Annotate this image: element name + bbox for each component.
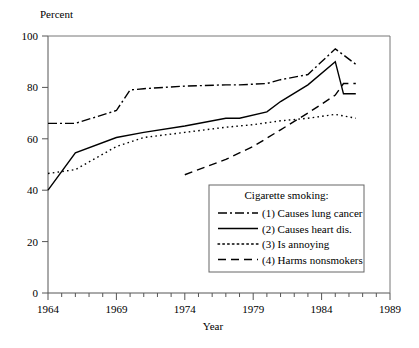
series-line-causes-heart-dis	[48, 62, 356, 191]
chart-legend: Cigarette smoking:(1) Causes lung cancer…	[209, 185, 364, 272]
legend-label-causes-heart-dis: (2) Causes heart dis.	[262, 223, 352, 236]
legend-label-causes-lung-cancer: (1) Causes lung cancer	[262, 207, 363, 220]
x-tick-label: 1979	[242, 303, 265, 315]
percent-vs-year-line-chart: Percent 020406080100 1964196919741979198…	[0, 0, 419, 348]
y-tick-label: 20	[27, 236, 39, 248]
y-tick-label: 80	[27, 81, 39, 93]
x-tick-label: 1984	[311, 303, 334, 315]
legend-label-harms-nonsmokers: (4) Harms nonsmokers	[262, 254, 363, 267]
x-tick-label: 1989	[379, 303, 402, 315]
legend-label-is-annoying: (3) Is annoying	[262, 238, 330, 251]
x-tick-label: 1969	[105, 303, 128, 315]
series-line-causes-lung-cancer	[48, 49, 356, 124]
legend-title: Cigarette smoking:	[244, 189, 328, 201]
x-tick-label: 1974	[174, 303, 197, 315]
series-group	[48, 49, 356, 190]
y-tick-label: 40	[27, 184, 39, 196]
y-tick-label: 0	[33, 287, 39, 299]
chart-container: Percent 020406080100 1964196919741979198…	[0, 0, 419, 348]
x-tick-label: 1964	[37, 303, 60, 315]
x-axis-ticks: 196419691974197919841989	[37, 293, 402, 315]
y-axis-title: Percent	[40, 8, 73, 20]
y-tick-label: 100	[22, 30, 39, 42]
y-tick-label: 60	[27, 133, 39, 145]
y-axis-ticks: 020406080100	[22, 30, 49, 299]
series-line-harms-nonsmokers	[185, 84, 356, 175]
x-axis-title: Year	[203, 320, 224, 332]
